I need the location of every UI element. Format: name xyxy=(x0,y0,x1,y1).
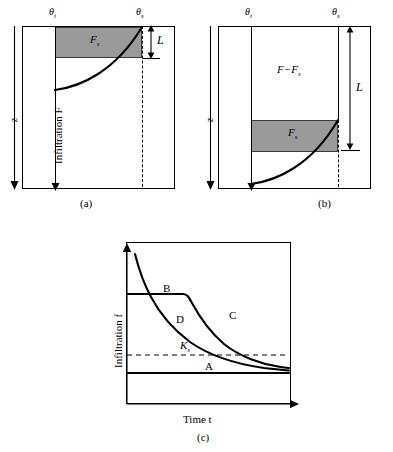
curve-label-a: A xyxy=(205,361,213,372)
panel-b: θi θs F−Fs Fs L z (b) xyxy=(196,0,393,225)
infiltration-curves-c xyxy=(126,242,301,412)
x-axis-label-c: Time t xyxy=(183,414,212,425)
panel-caption-a: (a) xyxy=(80,197,92,209)
depth-axis-label-z-a: z xyxy=(8,118,19,122)
curve-bc-path xyxy=(127,294,289,368)
depth-axis-z-a xyxy=(8,26,22,194)
theta-i-label-a: θi xyxy=(49,7,56,20)
theta-i-label-b: θi xyxy=(245,7,252,20)
theta-s-label-a: θs xyxy=(136,7,144,20)
panel-caption-b: (b) xyxy=(318,197,331,209)
depth-bracket-label-l-b: L xyxy=(356,81,363,93)
theta-s-label-b: θs xyxy=(332,7,340,20)
panel-caption-c: (c) xyxy=(197,431,209,443)
depth-axis-z-b xyxy=(204,26,218,194)
infiltration-f-label-a: Infiltration F xyxy=(52,107,64,164)
curve-label-d: D xyxy=(176,314,184,325)
y-axis-label-c: Infiltration f xyxy=(112,314,124,368)
curve-d-path xyxy=(135,254,289,371)
curve-label-b: B xyxy=(163,283,170,294)
depth-bracket-l-a xyxy=(142,24,168,64)
depth-axis-label-z-b: z xyxy=(204,118,215,122)
depth-bracket-label-l-a: L xyxy=(157,34,164,46)
conductivity-label-ks: Ks xyxy=(180,340,190,354)
curve-label-c: C xyxy=(229,310,236,321)
panel-a: θi θs Fs Infiltration F L z (a) xyxy=(0,0,196,225)
panel-c: B C D A Ks Infiltration f Time t (c) xyxy=(90,228,325,452)
depth-bracket-l-b xyxy=(338,24,368,158)
